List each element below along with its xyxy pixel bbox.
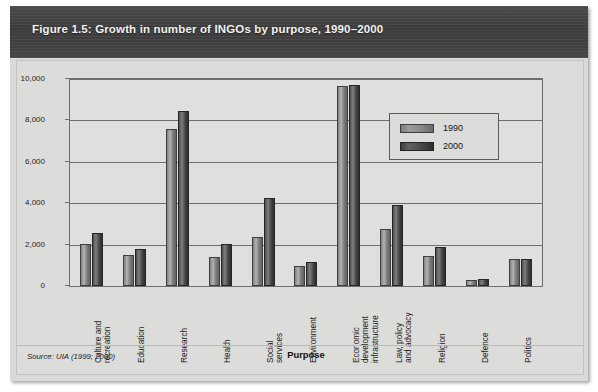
y-axis-tick-label: 6,000 [5,156,45,165]
figure-source: Source: UIA (1999; 2000) [27,352,115,361]
bar [252,237,263,286]
bar [521,259,532,286]
figure-title-band: Figure 1.5: Growth in number of INGOs by… [10,6,588,58]
chart-bars-layer [70,79,542,286]
bar [80,244,91,286]
figure-body-inner: 02,0004,0006,0008,00010,000 Culture and … [16,60,584,375]
bar [264,198,275,286]
legend-label-2000: 2000 [443,141,463,151]
legend-label-1990: 1990 [443,123,463,133]
bar-group [285,79,328,286]
bar [135,249,146,286]
source-divider [17,345,583,346]
y-axis-tick-label: 10,000 [5,74,45,83]
bar [166,129,177,286]
bar-group [413,79,456,286]
figure-card: Figure 1.5: Growth in number of INGOs by… [10,6,588,381]
bar [349,85,360,286]
y-axis-tick-mark [65,285,69,286]
bar [423,256,434,286]
legend-item-2000: 2000 [400,139,498,153]
bar [306,262,317,286]
y-axis-tick-mark [65,78,69,79]
bar [478,279,489,286]
bar-group [370,79,413,286]
bar [337,86,348,286]
bar [178,111,189,286]
bar-group [156,79,199,286]
y-axis-tick-mark [65,244,69,245]
bar-group [113,79,156,286]
y-axis-tick-mark [65,119,69,120]
bar [123,255,134,286]
bar [380,229,391,286]
y-axis-tick-label: 0 [5,281,45,290]
chart-plot-area [69,78,543,287]
bar [435,247,446,286]
bar-group [242,79,285,286]
legend-swatch-2000 [400,142,434,151]
bar [294,266,305,286]
bar-group [70,79,113,286]
bar [92,233,103,286]
chart-legend: 1990 2000 [389,113,499,160]
bar-group [199,79,242,286]
y-axis-tick-label: 8,000 [5,115,45,124]
y-axis-tick-label: 4,000 [5,198,45,207]
figure-title: Figure 1.5: Growth in number of INGOs by… [32,23,383,35]
bar [466,280,477,286]
bar [221,244,232,286]
bar-group [499,79,542,286]
legend-swatch-1990 [400,124,434,133]
y-axis-tick-mark [65,202,69,203]
y-axis-tick-mark [65,161,69,162]
figure-body: 02,0004,0006,0008,00010,000 Culture and … [10,58,588,381]
legend-item-1990: 1990 [400,121,498,135]
bar-group [327,79,370,286]
bar-group [456,79,499,286]
figure-container: Figure 1.5: Growth in number of INGOs by… [0,0,598,392]
bar [392,205,403,286]
chart-x-axis-title: Purpose [69,349,543,360]
bar [209,257,220,286]
y-axis-tick-label: 2,000 [5,239,45,248]
bar [509,259,520,286]
